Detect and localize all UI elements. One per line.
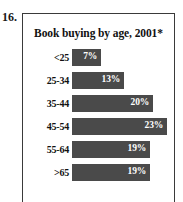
bar-value-label: 7% [83, 51, 97, 61]
bar-track: 20% [72, 95, 170, 112]
bar-track: 19% [72, 164, 170, 181]
scan-artifact-text [26, 0, 86, 4]
bar-track: 13% [72, 72, 170, 89]
bar-category-label: 55-64 [23, 144, 69, 155]
chart-panel: Book buying by age, 2001* <25 7% 25-34 1… [22, 13, 175, 202]
bar-row: <25 7% [23, 48, 174, 71]
bar-category-label: 25-34 [23, 75, 69, 86]
bar-value-label: 13% [102, 74, 120, 84]
bar-fill: 19% [72, 141, 150, 158]
bar-fill: 23% [72, 118, 167, 135]
bar-category-label: <25 [23, 52, 69, 63]
bar-value-label: 19% [128, 143, 146, 153]
bar-fill: 20% [72, 95, 153, 112]
question-number: 16. [2, 10, 17, 25]
bar-row: >65 19% [23, 163, 174, 186]
bar-value-label: 20% [131, 97, 149, 107]
bar-row: 25-34 13% [23, 71, 174, 94]
bar-fill: 7% [72, 49, 101, 66]
bar-row: 45-54 23% [23, 117, 174, 140]
bar-row: 55-64 19% [23, 140, 174, 163]
bar-category-label: 45-54 [23, 121, 69, 132]
bar-value-label: 19% [128, 166, 146, 176]
bar-track: 23% [72, 118, 170, 135]
bar-row: 35-44 20% [23, 94, 174, 117]
bar-track: 19% [72, 141, 170, 158]
bar-value-label: 23% [145, 120, 163, 130]
bar-category-label: >65 [23, 167, 69, 178]
bar-fill: 13% [72, 72, 124, 89]
chart-title: Book buying by age, 2001* [23, 27, 174, 39]
bar-chart-plot-area: <25 7% 25-34 13% 35-44 20% [23, 48, 174, 186]
bar-track: 7% [72, 49, 170, 66]
bar-fill: 19% [72, 164, 150, 181]
bar-category-label: 35-44 [23, 98, 69, 109]
